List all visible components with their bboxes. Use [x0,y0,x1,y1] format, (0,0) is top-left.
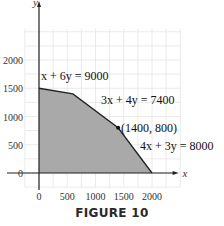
x-axis-label: x [182,167,188,179]
constraint-label-1: x + 6y = 9000 [41,69,109,83]
y-tick-label: 1000 [3,112,23,123]
x-tick-label: 1500 [114,191,134,202]
figure-caption: FIGURE 10 [0,206,224,220]
feasible-region-chart: xy05001000150020000500100015002000x + 6y… [0,0,224,226]
x-tick-label: 1000 [86,191,106,202]
y-tick-label: 500 [8,140,23,151]
y-axis-label: y [32,0,38,8]
y-tick-label: 2000 [3,55,23,66]
y-tick-label: 0 [18,168,23,179]
x-axis-arrow-icon [173,171,179,175]
y-tick-label: 1500 [3,83,23,94]
constraint-label-3: 4x + 3y = 8000 [140,139,214,153]
x-tick-label: 0 [37,191,42,202]
x-tick-label: 2000 [142,191,162,202]
x-tick-label: 500 [60,191,75,202]
vertex-point [116,126,120,130]
vertex-label: (1400, 800) [121,121,177,135]
constraint-label-2: 3x + 4y = 7400 [101,93,175,107]
